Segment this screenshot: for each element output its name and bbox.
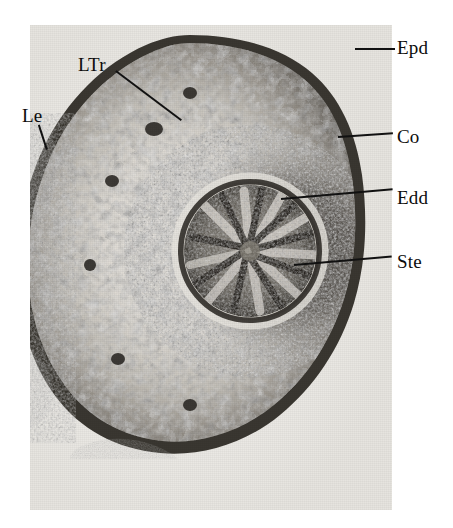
label-co: Co bbox=[397, 127, 420, 146]
label-edd: Edd bbox=[397, 188, 428, 207]
leader-line-epd bbox=[355, 48, 395, 50]
leaf-trace-bundle bbox=[183, 399, 197, 411]
label-epd: Epd bbox=[397, 38, 428, 57]
leaf-trace-bundle bbox=[111, 353, 125, 365]
micrograph-plate bbox=[30, 25, 392, 510]
leaf-base-texture bbox=[30, 113, 76, 443]
micrograph-figure: Epd LTr Le Co Edd Ste bbox=[0, 0, 453, 528]
stem-cross-section bbox=[30, 29, 392, 459]
label-le: Le bbox=[22, 106, 42, 125]
leaf-trace-bundle bbox=[84, 259, 96, 271]
leaf-trace-bundle bbox=[183, 87, 197, 99]
label-ltr: LTr bbox=[78, 55, 106, 74]
label-ste: Ste bbox=[397, 252, 422, 271]
leaf-trace-bundle bbox=[145, 122, 163, 136]
stele-center bbox=[240, 241, 260, 261]
leaf-trace-bundle bbox=[105, 175, 119, 187]
